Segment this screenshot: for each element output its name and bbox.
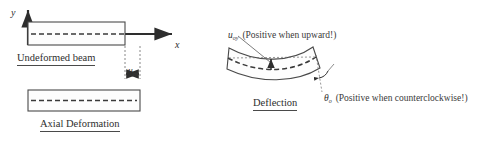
theta-label: θo(Positive when counterclockwise!)	[324, 88, 468, 104]
uoy-label: uoy(Positive when upward!)	[228, 25, 336, 41]
uox-subscript: ox	[133, 71, 139, 77]
axial-deformed-beam-group	[28, 90, 140, 111]
theta-reference-line	[316, 55, 322, 92]
theta-subscript: o	[329, 98, 332, 104]
undeformed-beam-caption: Undeformed beam	[17, 53, 95, 66]
uoy-note: (Positive when upward!)	[242, 30, 336, 40]
theta-note: (Positive when counterclockwise!)	[336, 93, 468, 103]
y-axis-label: y	[11, 8, 15, 18]
undeformed-beam-group	[28, 10, 172, 45]
beam-deformation-figure: y x Undeformed beam Axial Deformation De…	[0, 0, 490, 142]
deflected-beam-group	[227, 36, 334, 92]
axial-deformation-caption: Axial Deformation	[40, 119, 120, 132]
theta-leader-line	[328, 64, 334, 71]
deflection-caption: Deflection	[253, 98, 297, 111]
x-axis-label: x	[175, 40, 179, 50]
theta-angle-arc	[319, 71, 328, 78]
theta-symbol: θ	[324, 93, 329, 103]
uoy-subscript: oy	[233, 35, 239, 41]
deflected-beam-outline	[227, 47, 320, 80]
uox-label: uox	[128, 61, 138, 77]
